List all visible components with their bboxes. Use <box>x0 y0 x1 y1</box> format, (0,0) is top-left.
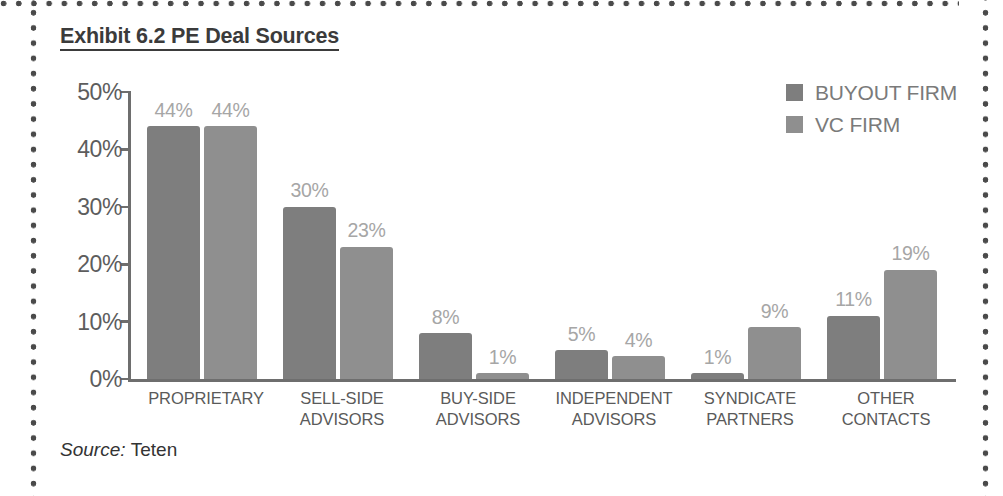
bar-value-label: 30% <box>277 181 342 201</box>
y-tick-mark <box>121 263 129 266</box>
bar-value-label: 1% <box>685 348 750 368</box>
bar-group-inner: 5%4% <box>555 89 673 379</box>
category-label-line: CONTACTS <box>801 409 971 430</box>
bar-group-inner: 8%1% <box>419 89 537 379</box>
bar <box>691 373 744 379</box>
legend-swatch-icon <box>786 84 803 101</box>
y-tick-label: 10% <box>48 311 122 334</box>
bar <box>340 247 393 379</box>
bar-value-label: 11% <box>821 290 886 310</box>
bar <box>884 270 937 379</box>
category-label: OTHERCONTACTS <box>801 388 971 430</box>
source-label: Source: <box>60 439 125 460</box>
bar <box>827 316 880 379</box>
bar-group: 8%1% <box>419 89 537 379</box>
x-axis-line <box>128 379 956 382</box>
legend-swatch-icon <box>786 116 803 133</box>
bar-group: 44%44% <box>147 89 265 379</box>
bar <box>147 126 200 379</box>
y-tick-mark <box>121 206 129 209</box>
bar <box>555 350 608 379</box>
y-tick-label: 40% <box>48 138 122 161</box>
y-tick-label: 20% <box>48 253 122 276</box>
y-axis-line <box>128 91 131 381</box>
bar-value-label: 9% <box>742 302 807 322</box>
bar <box>748 327 801 379</box>
y-tick-label: 30% <box>48 196 122 219</box>
legend-label: VC FIRM <box>815 114 900 135</box>
exhibit-figure: Exhibit 6.2 PE Deal Sources 50%40%30%20%… <box>0 0 1003 496</box>
legend-item[interactable]: VC FIRM <box>786 108 957 140</box>
bar-value-label: 5% <box>549 325 614 345</box>
bar <box>419 333 472 379</box>
bar <box>204 126 257 379</box>
legend-label: BUYOUT FIRM <box>815 82 957 103</box>
bar-value-label: 1% <box>470 348 535 368</box>
y-tick-label: 50% <box>48 81 122 104</box>
bar-group-inner: 44%44% <box>147 89 265 379</box>
category-label-line: OTHER <box>801 388 971 409</box>
bar-value-label: 44% <box>198 101 263 121</box>
bar <box>612 356 665 379</box>
y-tick-mark <box>121 91 129 94</box>
bar-group-inner: 30%23% <box>283 89 401 379</box>
bar-value-label: 23% <box>334 221 399 241</box>
bar-value-label: 44% <box>141 101 206 121</box>
bar <box>283 207 336 379</box>
y-tick-mark <box>121 378 129 381</box>
y-tick-mark <box>121 320 129 323</box>
y-tick-label: 0% <box>48 368 122 391</box>
bar-chart-plot: 50%40%30%20%10%0% 44%44%30%23%8%1%5%4%1%… <box>0 0 1003 496</box>
y-tick-mark <box>121 148 129 151</box>
bar <box>476 373 529 379</box>
source-note: Source: Teten <box>60 440 177 459</box>
bar-group: 30%23% <box>283 89 401 379</box>
bar-group: 5%4% <box>555 89 673 379</box>
bar-value-label: 4% <box>606 331 671 351</box>
legend-item[interactable]: BUYOUT FIRM <box>786 76 957 108</box>
chart-legend: BUYOUT FIRMVC FIRM <box>786 76 957 140</box>
source-value: Teten <box>131 439 177 460</box>
bar-value-label: 8% <box>413 308 478 328</box>
bar-value-label: 19% <box>878 244 943 264</box>
